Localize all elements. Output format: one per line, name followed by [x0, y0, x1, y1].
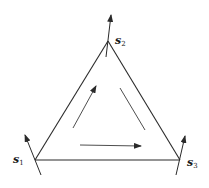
edge-s2-s3: [108, 41, 180, 160]
triangle-diagram: [0, 0, 209, 188]
label-subscript: 1: [19, 159, 23, 167]
vertex-label-s3: s3: [187, 157, 198, 170]
label-subscript: 2: [121, 40, 125, 48]
edge-s1-s2: [35, 41, 108, 160]
triangle-edges: [35, 41, 180, 160]
vertex-arrow-s2: [106, 15, 111, 57]
label-subscript: 3: [193, 162, 197, 170]
vertex-label-s2: s2: [115, 35, 126, 48]
inner-arrow-bottom: [80, 145, 141, 146]
vertex-label-s1: s1: [13, 154, 24, 167]
inner-line-right: [120, 88, 145, 130]
